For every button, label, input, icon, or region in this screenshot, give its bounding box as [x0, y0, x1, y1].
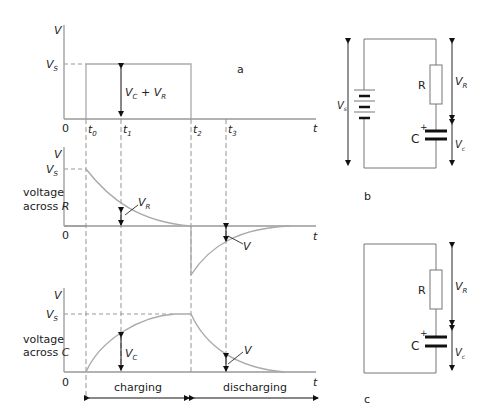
vs-label: VS: [46, 58, 59, 73]
y-axis-label: V: [54, 289, 63, 302]
battery-icon: [354, 90, 375, 118]
capacitor-label: C: [411, 339, 419, 353]
phase-indicators: charging discharging: [89, 381, 318, 398]
side-label-line2: across C: [23, 346, 70, 359]
vr-label: VR: [138, 196, 151, 211]
y-axis-label: V: [54, 24, 63, 37]
y-axis-label: V: [54, 148, 63, 161]
resistor-icon: [430, 270, 442, 309]
discharging-label: discharging: [223, 381, 287, 394]
graph-capacitor-voltage: V VS voltage across C 0 t VC V: [23, 288, 318, 389]
charging-label: charging: [114, 381, 162, 394]
vr-label: VR: [455, 75, 468, 90]
capacitor-icon: [425, 131, 447, 139]
vr-discharging-curve: [191, 226, 290, 275]
vc-label: Vc: [455, 139, 466, 152]
capacitor-label: C: [411, 132, 419, 146]
x-axis-label: t: [313, 122, 318, 135]
panel-label-a: a: [237, 63, 244, 76]
circuit-c-discharging: R C + VR Vc c: [364, 244, 468, 406]
vc-charging-curve: [86, 314, 191, 372]
plus-sign: +: [420, 328, 428, 338]
vr-label: VR: [455, 280, 468, 295]
x-axis-label: t: [313, 376, 318, 389]
tick-t1: t1: [123, 123, 132, 138]
vs-label: VS: [46, 163, 59, 178]
vc-label: Vc: [455, 347, 466, 360]
origin-label: 0: [62, 122, 69, 135]
graph-resistor-voltage: V VS voltage across R 0 t VR V: [23, 147, 318, 275]
tick-t0: t0: [88, 123, 97, 138]
panel-label-c: c: [364, 393, 370, 406]
wire-loop: [364, 244, 436, 373]
capacitor-icon: [425, 337, 447, 346]
tick-t2: t2: [193, 123, 202, 138]
resistor-icon: [430, 65, 442, 104]
origin-label: 0: [62, 229, 69, 242]
origin-label: 0: [62, 376, 69, 389]
resistor-label: R: [418, 284, 426, 297]
resistor-label: R: [418, 79, 426, 92]
side-label-line2: across R: [23, 200, 69, 213]
panel-label-b: b: [364, 190, 371, 203]
graph-total-voltage: V VS 0 t t0 t1 t2 t3 VC + VR a: [46, 24, 318, 400]
vc-discharging-curve: [191, 314, 285, 372]
tick-t3: t3: [228, 123, 237, 138]
vs-label: VS: [46, 308, 59, 323]
v-discharge-label: V: [243, 240, 252, 253]
v-discharge-label: V: [244, 344, 253, 357]
vc-label: VC: [125, 347, 138, 362]
plus-sign: +: [420, 122, 428, 132]
side-label-line1: voltage: [23, 333, 64, 346]
vs-label: Vs: [337, 100, 347, 112]
side-label-line1: voltage: [23, 186, 64, 199]
vc-plus-vr-label: VC + VR: [125, 86, 166, 101]
x-axis-label: t: [313, 230, 318, 243]
circuit-b-charging: Vs R C + VR Vc b: [337, 39, 468, 203]
rc-charging-diagram: V VS 0 t t0 t1 t2 t3 VC + VR a V VS volt…: [0, 0, 482, 414]
